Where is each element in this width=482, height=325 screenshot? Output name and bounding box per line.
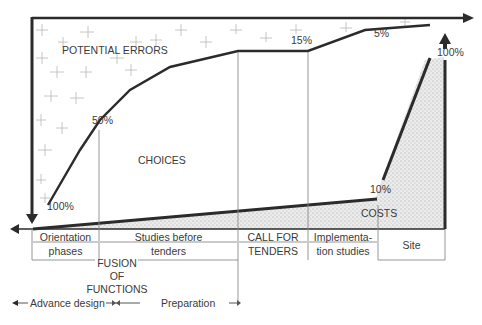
errors-start-label: 100% <box>47 201 74 212</box>
errors-50-label: 50% <box>92 115 113 126</box>
fusion-line1: FUSION <box>80 257 154 270</box>
choices-label: CHOICES <box>138 155 186 166</box>
diagram-stage: POTENTIAL ERRORS CHOICES COSTS 100% 50% … <box>0 0 482 325</box>
errors-5-label: 5% <box>374 28 389 39</box>
phase-call-for-tenders: CALL FOR TENDERS <box>238 230 308 258</box>
phase-line2: phases <box>32 244 99 258</box>
fusion-of-functions-label: FUSION OF FUNCTIONS <box>80 257 154 296</box>
costs-10-label: 10% <box>370 184 391 195</box>
potential-errors-label: POTENTIAL ERRORS <box>62 45 168 56</box>
fusion-line2: OF <box>80 270 154 283</box>
phase-line2: tenders <box>99 244 238 258</box>
phase-line2: tion studies <box>308 244 378 258</box>
phase-implementation-studies: Implementa- tion studies <box>308 230 378 258</box>
phase-studies-before-tenders: Studies before tenders <box>99 230 238 258</box>
phase-orientation: Orientation phases <box>32 230 99 258</box>
phase-line1: Studies before <box>99 230 238 244</box>
phase-line1: CALL FOR <box>238 230 308 244</box>
preparation-label: Preparation <box>161 298 215 309</box>
phase-line1: Site <box>378 238 445 252</box>
advance-design-label: Advance design <box>30 298 105 309</box>
costs-label: COSTS <box>361 208 397 219</box>
phase-line1: Implementa- <box>308 230 378 244</box>
errors-15-label: 15% <box>291 35 312 46</box>
phase-line1: Orientation <box>32 230 99 244</box>
costs-area <box>33 57 444 229</box>
phase-site: Site <box>378 238 445 252</box>
fusion-line3: FUNCTIONS <box>80 283 154 296</box>
costs-100-label: 100% <box>437 47 464 58</box>
phase-line2: TENDERS <box>238 244 308 258</box>
